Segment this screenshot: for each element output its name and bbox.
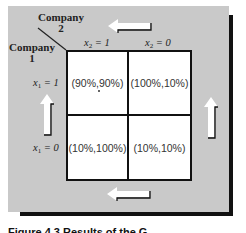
figure-caption: Figure 4.3 Results of the G [8,226,147,233]
row-header-x1-1: x1 = 1 [33,77,59,92]
left-arrow-icon-top [108,19,154,35]
payoff-matrix: (90%,90%) (100%,10%) (10%,100%) (10%,10%… [66,50,192,181]
column-player-label: Company 2 [36,12,86,34]
payoff-cell-0-1: (10%,100%) [66,114,129,181]
equilibrium-dot [98,90,100,92]
row-player-label: Company 1 [8,42,56,64]
left-arrow-icon-bottom [107,187,153,203]
row-header-x1-0: x1 = 0 [33,142,59,157]
payoff-cell-1-1: (90%,90%) [66,50,129,116]
up-arrow-icon-right [204,97,220,141]
payoff-cell-1-0: (100%,10%) [127,50,192,116]
payoff-cell-0-0: (10%,10%) [127,114,192,181]
up-arrow-icon-left [40,94,56,138]
